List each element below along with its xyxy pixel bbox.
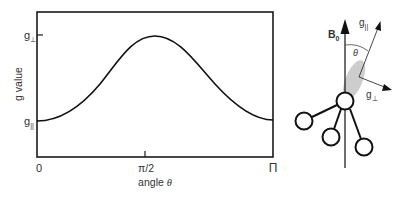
- x-axis-label: angle θ: [138, 176, 172, 188]
- y-tick-label-g-parallel: g||: [24, 115, 34, 130]
- x-tick-label-pi: Π: [269, 161, 278, 175]
- bond-left: [312, 105, 337, 117]
- b0-label: B0: [328, 28, 340, 42]
- bond-middle: [334, 109, 341, 129]
- x-tick-label-pi-half: π/2: [138, 162, 154, 174]
- central-atom: [337, 93, 354, 110]
- ligand-atom-middle: [323, 129, 340, 146]
- g-curve: [37, 36, 273, 121]
- g-parallel-axis: [359, 28, 378, 77]
- plot-frame: [37, 12, 273, 157]
- bond-right: [350, 109, 361, 139]
- g-perp-axis: [359, 77, 387, 88]
- g-parallel-arrowhead-icon: [375, 21, 381, 31]
- g-perp-arrowhead-icon: [382, 84, 392, 91]
- x-tick-label-0: 0: [36, 162, 42, 174]
- b0-arrowhead-icon: [341, 19, 350, 34]
- g-perp-label: g⊥: [366, 89, 378, 102]
- y-tick-label-g-perp: g⊥: [24, 29, 36, 43]
- g-value-chart: g value g⊥ g|| 0 π/2 Π angle θ: [12, 12, 277, 188]
- figure: g value g⊥ g|| 0 π/2 Π angle θ B0 g||: [0, 0, 404, 198]
- orientation-diagram: B0 g|| g⊥ θ: [296, 17, 393, 168]
- ligand-atom-right: [356, 139, 373, 156]
- g-parallel-label: g||: [359, 17, 368, 31]
- ligand-atom-left: [296, 113, 313, 130]
- y-axis-label: g value: [12, 67, 24, 101]
- theta-label: θ: [353, 48, 358, 58]
